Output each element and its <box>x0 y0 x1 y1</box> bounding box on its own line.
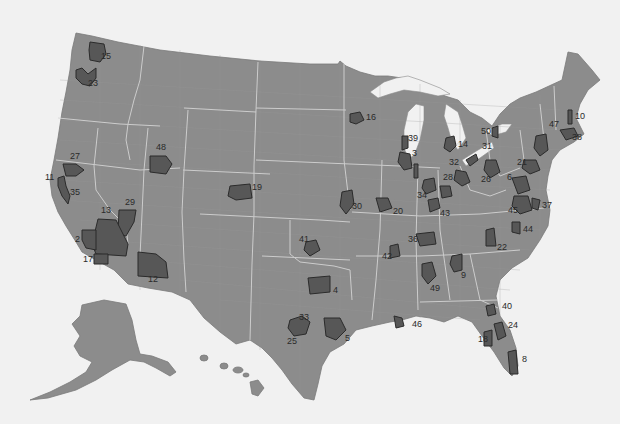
region-label-4: 4 <box>333 286 338 295</box>
region-label-13: 13 <box>101 206 111 215</box>
region-label-14: 14 <box>458 140 468 149</box>
region-label-8: 8 <box>522 355 527 364</box>
region-label-36: 36 <box>408 235 418 244</box>
region-label-15: 15 <box>101 52 111 61</box>
region-label-3: 3 <box>412 149 417 158</box>
region-label-38: 38 <box>572 133 582 142</box>
region-label-20: 20 <box>393 207 403 216</box>
hawaii-islands <box>200 355 264 396</box>
region-label-10: 10 <box>575 112 585 121</box>
region-label-29: 29 <box>125 198 135 207</box>
region-label-45: 45 <box>508 206 518 215</box>
region-label-42: 42 <box>382 252 392 261</box>
region-label-27: 27 <box>70 152 80 161</box>
region-36[interactable] <box>416 232 436 246</box>
region-label-50: 50 <box>481 127 491 136</box>
region-label-9: 9 <box>461 271 466 280</box>
region-40[interactable] <box>486 304 496 316</box>
region-label-5: 5 <box>345 334 350 343</box>
region-label-34: 34 <box>417 191 427 200</box>
region-17[interactable] <box>94 254 108 264</box>
region-label-18: 18 <box>478 335 488 344</box>
region-37[interactable] <box>532 198 540 210</box>
region-label-17: 17 <box>83 255 93 264</box>
region-label-44: 44 <box>523 225 533 234</box>
region-label-49: 49 <box>430 284 440 293</box>
region-4[interactable] <box>308 276 330 294</box>
region-label-19: 19 <box>252 183 262 192</box>
region-label-39: 39 <box>408 134 418 143</box>
alaska-landmass <box>30 300 176 400</box>
region-label-6: 6 <box>507 173 512 182</box>
region-label-43: 43 <box>440 209 450 218</box>
region-label-24: 24 <box>508 321 518 330</box>
us-map: 1523482711351929132171216393145031104738… <box>0 0 620 424</box>
region-label-16: 16 <box>366 113 376 122</box>
region-22[interactable] <box>486 228 496 246</box>
region-label-23: 23 <box>88 79 98 88</box>
region-label-22: 22 <box>497 243 507 252</box>
region-3b[interactable] <box>414 164 418 178</box>
region-label-2: 2 <box>75 235 80 244</box>
region-label-37: 37 <box>542 201 552 210</box>
region-label-40: 40 <box>502 302 512 311</box>
region-10[interactable] <box>568 110 572 124</box>
region-label-12: 12 <box>148 275 158 284</box>
region-label-46: 46 <box>412 320 422 329</box>
region-label-32: 32 <box>449 158 459 167</box>
region-8[interactable] <box>508 350 518 374</box>
region-label-21: 21 <box>517 158 527 167</box>
region-label-11: 11 <box>45 173 54 182</box>
region-label-35: 35 <box>70 188 80 197</box>
region-28[interactable] <box>440 186 452 198</box>
region-label-26: 26 <box>481 175 491 184</box>
region-label-28: 28 <box>443 173 453 182</box>
region-label-33: 33 <box>299 313 309 322</box>
region-label-41: 41 <box>299 235 309 244</box>
region-50[interactable] <box>492 126 498 138</box>
region-label-30: 30 <box>352 202 362 211</box>
region-label-47: 47 <box>549 120 559 129</box>
region-label-31: 31 <box>482 142 492 151</box>
region-19[interactable] <box>228 184 252 200</box>
region-44[interactable] <box>512 222 520 234</box>
region-label-25: 25 <box>287 337 297 346</box>
region-label-48: 48 <box>156 143 166 152</box>
